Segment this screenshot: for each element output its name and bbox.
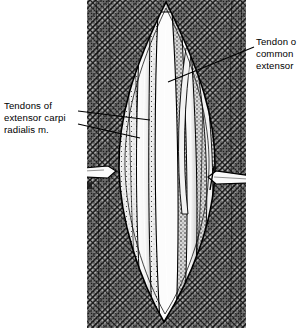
illustration-plate bbox=[0, 0, 300, 328]
label-line: Tendon o bbox=[256, 36, 296, 48]
forearm-plate bbox=[60, 0, 252, 328]
label-line: common bbox=[256, 48, 296, 60]
label-line: Tendons of bbox=[4, 100, 66, 112]
label-line: extensor bbox=[256, 60, 296, 72]
label-line: radialis m. bbox=[4, 124, 66, 136]
label-tendons-extensor-carpi-radialis: Tendons of extensor carpi radialis m. bbox=[4, 100, 66, 136]
label-tendon-common-extensor: Tendon o common extensor bbox=[256, 36, 296, 72]
figure-surgical-illustration: Tendons of extensor carpi radialis m. Te… bbox=[0, 0, 300, 328]
label-line: extensor carpi bbox=[4, 112, 66, 124]
